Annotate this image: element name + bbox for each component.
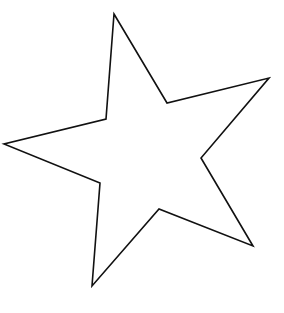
star-canvas [0, 0, 284, 313]
